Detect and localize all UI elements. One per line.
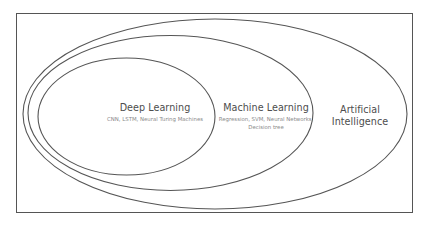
deep-learning-title: Deep Learning (100, 102, 210, 114)
machine-learning-label: Machine Learning Regression, SVM, Neural… (214, 102, 318, 131)
machine-learning-title: Machine Learning (214, 102, 318, 114)
machine-learning-examples: Regression, SVM, Neural Networks, Decisi… (214, 115, 318, 132)
ai-ml-dl-venn-diagram: Deep Learning CNN, LSTM, Neural Turing M… (0, 0, 433, 227)
artificial-intelligence-label: Artificial Intelligence (322, 104, 398, 128)
artificial-intelligence-title-line2: Intelligence (322, 116, 398, 128)
deep-learning-label: Deep Learning CNN, LSTM, Neural Turing M… (100, 102, 210, 123)
artificial-intelligence-title-line1: Artificial (322, 104, 398, 116)
deep-learning-examples: CNN, LSTM, Neural Turing Machines (100, 115, 210, 123)
